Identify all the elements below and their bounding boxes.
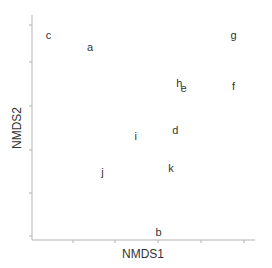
x-axis-label: NMDS1 (122, 247, 164, 261)
point-label-c: c (46, 29, 52, 41)
point-label-g: g (230, 29, 236, 41)
point-label-b: b (156, 226, 162, 238)
axes (29, 15, 255, 243)
nmds-scatter-chart: caghefidjkb NMDS1 NMDS2 (0, 0, 272, 268)
point-label-f: f (232, 80, 236, 92)
y-axis-label: NMDS2 (10, 107, 24, 149)
chart-canvas: caghefidjkb NMDS1 NMDS2 (0, 0, 272, 268)
point-label-e: e (181, 82, 187, 94)
point-label-j: j (100, 166, 103, 178)
point-label-a: a (87, 41, 94, 53)
data-points: caghefidjkb (46, 29, 237, 238)
point-label-d: d (172, 124, 178, 136)
point-label-k: k (168, 162, 174, 174)
point-label-i: i (135, 130, 137, 142)
